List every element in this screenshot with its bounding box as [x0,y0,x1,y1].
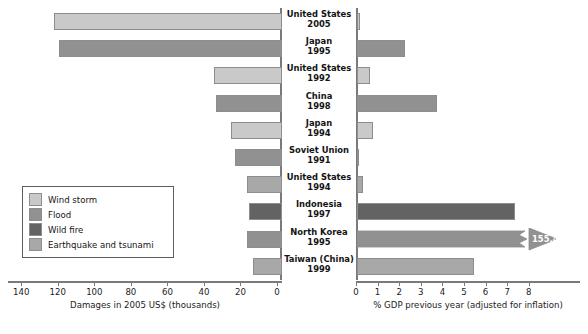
right-bar-panel: 155.4 [357,8,580,280]
left-axis-tick-label: 140 [13,287,29,297]
legend-swatch-icon [29,223,42,236]
right-bar-row [357,8,580,35]
right-bar [357,149,359,166]
left-axis-title: Damages in 2005 US$ (thousands) [8,300,282,310]
chart-legend: Wind stormFloodWild fireEarthquake and t… [22,186,174,258]
right-axis-tick [399,281,400,286]
left-bar [249,203,282,220]
left-axis-tick-label: 20 [235,287,246,297]
right-axis-tick-label: 4 [440,287,445,297]
broken-bar-arrow-icon [357,228,557,251]
left-bar-row [8,35,282,62]
category-label: Japan1995 [283,37,355,57]
left-axis-scale: Damages in 2005 US$ (thousands) 14012010… [8,281,282,325]
right-axis-tick-label: 6 [483,287,488,297]
right-bar [357,67,370,84]
category-year: 1999 [283,265,355,275]
right-bar-row: 155.4 [357,226,580,253]
legend-swatch-icon [29,238,42,251]
category-year: 1995 [283,47,355,57]
broken-bar-value-label: 155.4 [532,234,559,244]
left-bar [253,258,282,275]
category-label: China1998 [283,92,355,112]
left-bar [247,176,282,193]
category-year: 1994 [283,129,355,139]
left-axis-tick [167,281,168,286]
right-bar-row [357,144,580,171]
category-label: Soviet Union1991 [283,146,355,166]
category-year: 1994 [283,183,355,193]
right-bar-row [357,253,580,280]
left-bar-row [8,90,282,117]
right-axis-rule [356,281,580,283]
category-label: United States1994 [283,173,355,193]
right-axis-tick-label: 3 [418,287,423,297]
legend-label: Earthquake and tsunami [48,240,154,250]
right-axis-tick [507,281,508,286]
right-axis-title: % GDP previous year (adjusted for inflat… [356,300,580,310]
right-bar [357,40,405,57]
right-bar [357,258,474,275]
left-axis-tick-label: 120 [50,287,66,297]
right-axis-tick [378,281,379,286]
right-bar-row [357,117,580,144]
right-bar-row [357,35,580,62]
left-axis-tick [131,281,132,286]
category-year: 2005 [283,20,355,30]
left-bar-row [8,62,282,89]
left-bar [59,40,282,57]
left-bar [235,149,282,166]
legend-label: Wind storm [48,195,97,205]
legend-swatch-icon [29,208,42,221]
right-bar-row [357,62,580,89]
left-axis-tick [240,281,241,286]
right-axis-tick [442,281,443,286]
legend-label: Flood [48,210,71,220]
left-bar-row [8,8,282,35]
right-bar [357,176,363,193]
legend-label: Wild fire [48,225,83,235]
legend-item: Flood [29,207,167,222]
left-axis-tick [58,281,59,286]
broken-axis-bar: 155.4 [357,228,557,251]
right-axis-tick [529,281,530,286]
left-bar [214,67,282,84]
left-bar [231,122,282,139]
disaster-damages-chart: 155.4 United States2005Japan1995United S… [0,0,588,334]
left-bar-row [8,144,282,171]
right-axis-tick [464,281,465,286]
left-axis-tick [94,281,95,286]
right-axis-scale: % GDP previous year (adjusted for inflat… [356,281,580,325]
category-country: North Korea [283,228,355,238]
left-axis-tick [21,281,22,286]
left-axis-tick-label: 80 [125,287,136,297]
right-bar-row [357,90,580,117]
right-bar [357,203,515,220]
category-label: North Korea1995 [283,228,355,248]
legend-swatch-icon [29,193,42,206]
right-bar [357,13,360,30]
left-bar-row [8,117,282,144]
right-bar [357,95,437,112]
left-axis-tick [277,281,278,286]
category-label: Taiwan (China)1999 [283,255,355,275]
right-axis-tick [486,281,487,286]
right-axis-tick-label: 7 [504,287,509,297]
legend-item: Wild fire [29,222,167,237]
left-axis-tick-label: 0 [274,287,279,297]
left-axis-tick-label: 60 [162,287,173,297]
left-bar [247,231,282,248]
right-axis-tick-label: 1 [375,287,380,297]
category-label: Japan1994 [283,119,355,139]
legend-item: Wind storm [29,192,167,207]
right-axis-tick [421,281,422,286]
left-axis-tick [204,281,205,286]
left-axis-tick-label: 100 [86,287,102,297]
right-axis-tick-label: 8 [526,287,531,297]
left-axis-tick-label: 40 [198,287,209,297]
right-bar-row [357,171,580,198]
legend-item: Earthquake and tsunami [29,237,167,252]
right-bar-row [357,198,580,225]
left-bar [216,95,282,112]
category-label-column: United States2005Japan1995United States1… [283,8,355,280]
